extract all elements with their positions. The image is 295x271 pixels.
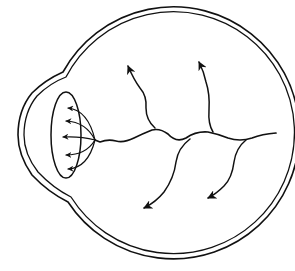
optic-disc (95, 130, 276, 143)
eye-diagram (0, 0, 295, 271)
globe-outline (18, 7, 295, 259)
lens (51, 92, 81, 178)
retinal-vessels (95, 62, 276, 208)
